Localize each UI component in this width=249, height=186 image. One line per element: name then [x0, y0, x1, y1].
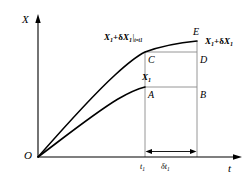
vertex-label-D: D [200, 55, 207, 65]
curve-label-X1-plus-dX1-at-t1: X1+δX1|t=t1 [104, 33, 142, 43]
curve-diagram [0, 0, 249, 186]
origin-label: O [24, 150, 32, 161]
tick-label-t1-subscript: 1 [142, 166, 145, 172]
curve-label-X1-plus-dX1: X1+δX1 [205, 37, 233, 47]
vertex-label-B: B [200, 90, 206, 100]
x-axis-arrowhead-icon [233, 154, 242, 159]
x-axis-label: t [228, 163, 231, 174]
dt1-right-arrowhead-icon [190, 149, 197, 154]
figure-container: X t O E C D A B X1 X1+δX1|t=t1 X1+δX1 t1… [0, 0, 249, 186]
vertex-label-A: A [148, 90, 154, 100]
curve-label-at-t1-operator: +δ [113, 32, 123, 42]
y-axis-label: X [22, 14, 29, 25]
curve-label-end-subscript2: 1 [230, 41, 233, 47]
y-axis-arrowhead-icon [35, 14, 40, 23]
vertex-label-E: E [193, 27, 199, 37]
curve-label-X1: X1 [142, 73, 151, 83]
tick-label-delta-t1: δt1 [161, 163, 170, 172]
dt1-left-arrowhead-icon [146, 149, 153, 154]
tick-label-delta-t1-subscript: 1 [167, 166, 170, 172]
curve-label-end-operator: +δ [214, 36, 224, 46]
vertex-label-C: C [148, 55, 155, 65]
curve-label-at-t1-evaluation-subscript: 1 [140, 38, 143, 43]
tick-label-t1: t1 [140, 163, 145, 172]
curve-label-X1-subscript: 1 [148, 77, 151, 83]
